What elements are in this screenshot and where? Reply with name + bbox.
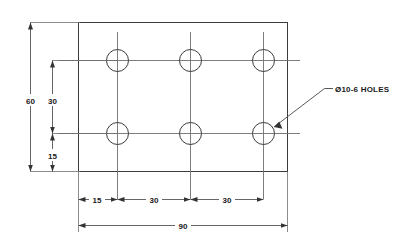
leader-line	[274, 89, 333, 128]
dim-label-15-horizontal: 15	[93, 196, 102, 205]
dim-overall-width: 90	[79, 172, 288, 233]
dim-label-90: 90	[179, 222, 188, 231]
hole-centerlines	[58, 32, 300, 199]
leader-arrowhead	[274, 122, 283, 129]
dim-horizontal-chain: 15 30 30	[79, 172, 264, 207]
hole-note-leader: Ø10-6 HOLES	[274, 85, 390, 129]
dim-bottom-row-offset: 15	[45, 134, 61, 172]
drawing-canvas: 60 30 15 15 30	[0, 0, 412, 242]
hole-note-label: Ø10-6 HOLES	[335, 85, 390, 94]
dim-label-30-vertical: 30	[48, 97, 57, 106]
dim-label-30-horizontal-a: 30	[150, 196, 159, 205]
dim-label-30-horizontal-b: 30	[223, 196, 232, 205]
dim-hole-row-spacing: 30	[45, 61, 118, 134]
plate-outline	[79, 23, 288, 172]
engineering-drawing: 60 30 15 15 30	[0, 0, 412, 242]
dim-label-60: 60	[26, 97, 35, 106]
dim-label-15-vertical: 15	[48, 152, 57, 161]
